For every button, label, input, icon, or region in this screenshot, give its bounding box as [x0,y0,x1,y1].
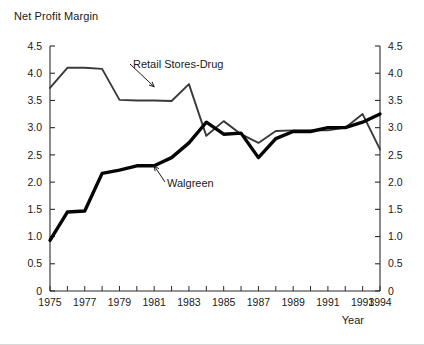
y-tick-label-right: 1.5 [388,203,403,215]
x-axis-label: Year [342,314,365,326]
x-tick-label: 1989 [281,296,305,308]
y-tick-label-left: 1.5 [27,203,42,215]
y-tick-label-right: 1.0 [388,230,403,242]
x-tick-label: 1985 [212,296,236,308]
y-tick-label-left: 2.5 [27,149,42,161]
y-tick-label-right: 2.5 [388,149,403,161]
y-tick-label-left: 1.0 [27,230,42,242]
y-tick-label-left: 3.0 [27,121,42,133]
annotation-walgreen: Walgreen [154,166,213,189]
x-axis-ticks: 1975197719791981198319851987198919911993… [38,286,392,308]
x-tick-label: 1981 [143,296,167,308]
y-tick-label-right: 0.5 [388,257,403,269]
y-tick-label-left: 2.0 [27,176,42,188]
series-label-retail-stores-drug: Retail Stores-Drug [133,58,223,70]
x-tick-label: 1987 [247,296,271,308]
series-line-walgreen [50,114,380,240]
annotation-retail-stores-drug: Retail Stores-Drug [130,58,223,87]
y-tick-label-left: 0.5 [27,257,42,269]
y-tick-label-right: 3.0 [388,121,403,133]
y-tick-label-right: 4.0 [388,67,403,79]
x-tick-label: 1991 [316,296,340,308]
series-group [50,68,380,241]
series-line-retail-stores-drug [50,68,380,150]
net-profit-margin-line-chart: 000.50.51.01.01.51.52.02.02.52.53.03.03.… [0,0,424,345]
y-tick-label-left: 4.5 [27,40,42,52]
y-tick-label-left: 3.5 [27,94,42,106]
y-tick-label-left: 4.0 [27,67,42,79]
y-tick-label-right: 4.5 [388,40,403,52]
y-axis-ticks: 000.50.51.01.01.51.52.02.02.52.53.03.03.… [27,40,402,297]
series-label-walgreen: Walgreen [167,177,214,189]
x-tick-label: 1979 [108,296,132,308]
y-tick-label-right: 0 [388,285,394,297]
x-tick-label: 1994 [368,296,392,308]
x-tick-label: 1975 [38,296,62,308]
walgreen-leader-arrow [154,166,165,182]
y-tick-label-right: 3.5 [388,94,403,106]
x-tick-label: 1977 [73,296,97,308]
x-tick-label: 1983 [177,296,201,308]
chart-page: Net Profit Margin 000.50.51.01.01.51.52.… [0,0,424,345]
y-tick-label-right: 2.0 [388,176,403,188]
y-tick-label-left: 0 [36,285,42,297]
